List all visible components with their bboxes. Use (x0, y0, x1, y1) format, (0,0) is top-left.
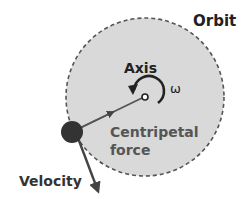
circular-motion-diagram: Orbit Axis ω Centripetal force Velocity (0, 0, 251, 216)
orbit-label: Orbit (193, 12, 236, 30)
axis-point (142, 94, 148, 100)
centripetal-force-label-line1: Centripetal (110, 124, 199, 140)
axis-label: Axis (124, 60, 157, 76)
centripetal-force-label-line2: force (110, 142, 150, 158)
velocity-label: Velocity (19, 173, 82, 189)
orbiting-mass (61, 121, 83, 143)
omega-label: ω (170, 81, 181, 96)
